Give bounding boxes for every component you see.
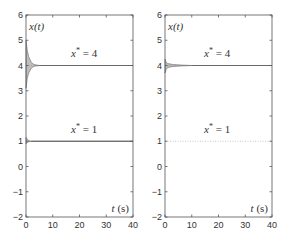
y-tick-label: 6	[18, 10, 23, 20]
x-tick-label: 40	[128, 220, 138, 230]
x-tick-label: 10	[48, 220, 58, 230]
chart-panel-left: −2−10123456010203040x(t)t (s)x* = 4x* = …	[13, 10, 138, 230]
x-axis-label: t (s)	[112, 202, 130, 215]
y-tick-label: 2	[18, 111, 23, 121]
x-tick-label: 30	[101, 220, 111, 230]
y-tick-label: 3	[157, 86, 162, 96]
y-axis-label: x(t)	[167, 20, 184, 33]
y-tick-label: 5	[18, 35, 23, 45]
y-tick-label: 0	[18, 162, 23, 172]
y-tick-label: −2	[152, 212, 162, 222]
x-tick-label: 40	[267, 220, 277, 230]
y-tick-label: 2	[157, 111, 162, 121]
chart-panel-right: −2−10123456010203040x(t)t (s)x* = 4x* = …	[152, 10, 277, 230]
y-axis-label: x(t)	[28, 20, 45, 33]
axes-frame	[165, 15, 272, 217]
y-tick-label: 5	[157, 35, 162, 45]
equilibrium-annotation: x* = 1	[70, 122, 97, 135]
x-tick-label: 20	[74, 220, 84, 230]
x-tick-label: 30	[240, 220, 250, 230]
y-tick-label: 1	[157, 136, 162, 146]
trajectory-band	[165, 59, 272, 73]
x-tick-label: 0	[162, 220, 167, 230]
trajectory-band	[26, 138, 133, 144]
x-tick-label: 20	[213, 220, 223, 230]
equilibrium-annotation: x* = 4	[70, 46, 98, 59]
x-tick-label: 10	[187, 220, 197, 230]
y-tick-label: 3	[18, 86, 23, 96]
equilibrium-annotation: x* = 4	[203, 46, 231, 59]
y-tick-label: 4	[18, 61, 23, 71]
y-tick-label: −1	[13, 187, 23, 197]
equilibrium-annotation: x* = 1	[203, 122, 230, 135]
y-tick-label: 4	[157, 61, 162, 71]
y-tick-label: 0	[157, 162, 162, 172]
y-tick-label: 1	[18, 136, 23, 146]
y-tick-label: 6	[157, 10, 162, 20]
x-tick-label: 0	[23, 220, 28, 230]
chart-figure: −2−10123456010203040x(t)t (s)x* = 4x* = …	[0, 0, 292, 242]
y-tick-label: −2	[13, 212, 23, 222]
y-tick-label: −1	[152, 187, 162, 197]
x-axis-label: t (s)	[251, 202, 269, 215]
